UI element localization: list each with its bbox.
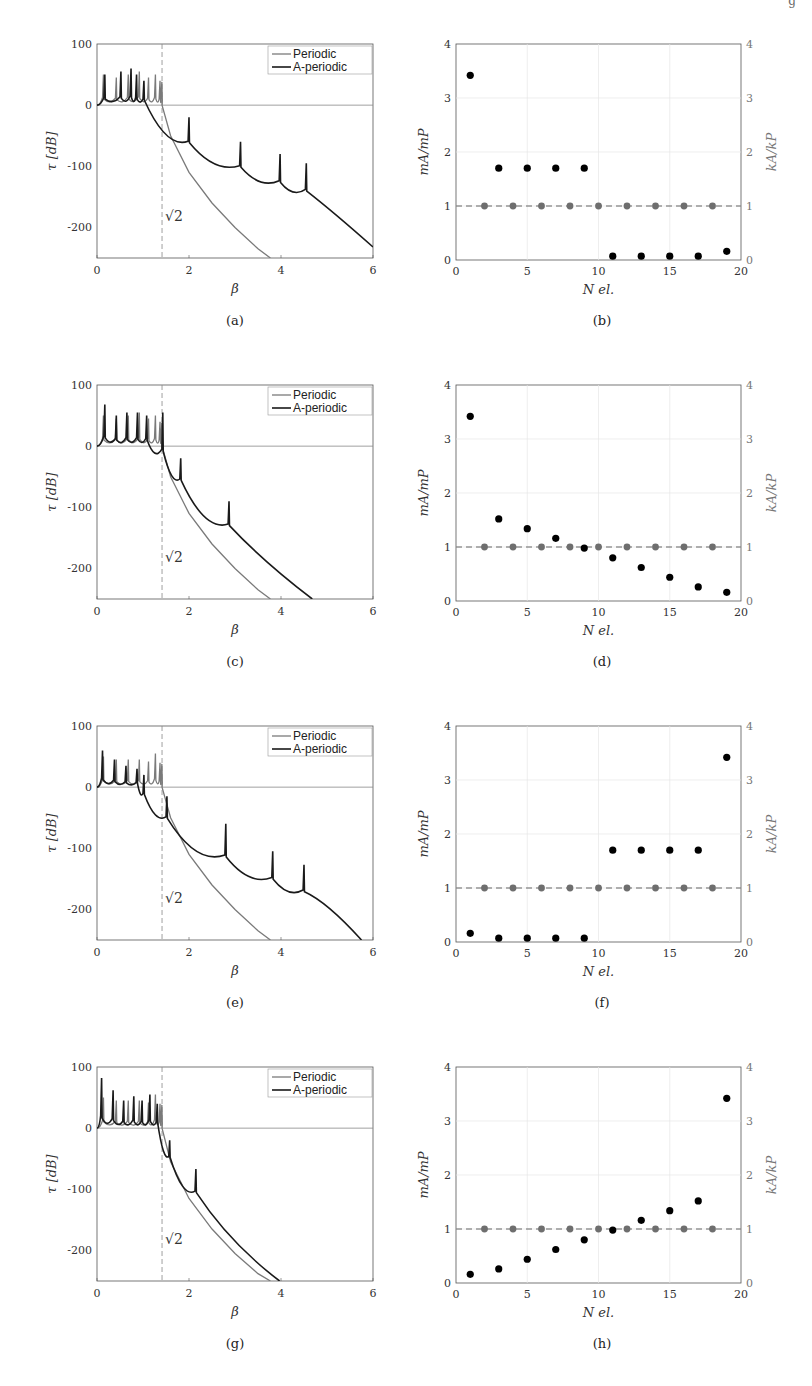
panel-e-transmission-plot: 02461000-100-200√2PeriodicA-periodicβτ [… [0,682,406,1022]
y-tick-label: 1 [444,541,451,554]
x-tick-label: 6 [370,264,377,277]
stiffness-ratio-point [510,1226,517,1233]
x-tick-label: 4 [278,264,285,277]
y-tick-label: 100 [71,38,92,51]
y-tick-label: 3 [444,433,451,446]
y-right-axis-label: kA/kP [764,474,779,513]
legend-aperiodic: A-periodic [293,742,347,756]
y-right-tick-label: 0 [746,595,753,608]
stiffness-ratio-point [709,203,716,210]
stiffness-ratio-point [624,1226,631,1233]
y-tick-label: 0 [85,1122,92,1135]
x-tick-label: 0 [94,264,101,277]
x-tick-label: 4 [278,1287,285,1300]
legend-periodic: Periodic [293,729,336,743]
panel-c-transmission-plot: 02461000-100-200√2PeriodicA-periodicβτ [… [0,341,406,681]
mass-ratio-point [666,253,673,260]
mass-ratio-point [638,564,645,571]
x-tick-label: 0 [94,1287,101,1300]
legend-aperiodic: A-periodic [293,60,347,74]
y-tick-label: 2 [444,1169,451,1182]
y-tick-label: 2 [444,487,451,500]
mass-ratio-point [467,72,474,79]
x-axis-label: β [230,1304,239,1319]
stiffness-ratio-point [709,544,716,551]
x-tick-label: 15 [663,265,677,278]
mass-ratio-point [695,253,702,260]
sqrt2-annotation: √2 [165,549,183,565]
x-tick-label: 10 [592,606,606,619]
x-tick-label: 15 [663,1288,677,1301]
stiffness-ratio-point [595,885,602,892]
x-tick-label: 5 [524,947,531,960]
figure: g 02461000-100-200√2PeriodicA-periodicβτ… [0,0,812,1386]
mass-ratio-point [723,1095,730,1102]
mass-ratio-point [695,1197,702,1204]
mass-ratio-point [695,847,702,854]
stiffness-ratio-point [681,203,688,210]
mass-ratio-point [467,930,474,937]
sqrt2-annotation: √2 [165,208,183,224]
y-tick-label: -200 [67,903,92,916]
y-tick-label: 100 [71,720,92,733]
stiffness-ratio-point [538,1226,545,1233]
mass-ratio-point [467,413,474,420]
stiffness-ratio-point [510,203,517,210]
mass-ratio-point [524,1256,531,1263]
y-axis-label: mA/mP [416,1151,431,1198]
stiffness-ratio-point [709,885,716,892]
x-tick-label: 2 [186,605,193,618]
mass-ratio-point [524,525,531,532]
panel-a-transmission-plot: 02461000-100-200√2PeriodicA-periodicβτ [… [0,0,406,340]
mass-ratio-point [495,515,502,522]
x-tick-label: 6 [370,605,377,618]
y-tick-label: 3 [444,774,451,787]
stiffness-ratio-point [652,885,659,892]
mass-ratio-point [495,935,502,942]
x-axis-label: N el. [582,623,615,638]
mass-ratio-point [552,1246,559,1253]
mass-ratio-point [638,253,645,260]
y-axis-label: τ [dB] [44,812,59,852]
x-tick-label: 10 [592,265,606,278]
mass-ratio-point [552,935,559,942]
y-tick-label: 3 [444,1115,451,1128]
y-tick-label: 0 [85,440,92,453]
y-right-axis-label: kA/kP [764,815,779,854]
y-axis-label: mA/mP [416,810,431,857]
legend-periodic: Periodic [293,388,336,402]
y-tick-label: 0 [444,936,451,949]
y-tick-label: 100 [71,379,92,392]
y-tick-label: -100 [67,160,92,173]
x-tick-label: 5 [524,265,531,278]
stiffness-ratio-point [481,1226,488,1233]
caption-b: (b) [582,313,622,328]
legend: PeriodicA-periodic [268,387,372,415]
y-tick-label: 0 [444,1277,451,1290]
y-right-tick-label: 1 [746,541,753,554]
x-tick-label: 4 [278,946,285,959]
y-right-tick-label: 2 [746,146,753,159]
y-right-tick-label: 3 [746,1115,753,1128]
sqrt2-annotation: √2 [165,1231,183,1247]
stiffness-ratio-point [595,1226,602,1233]
mass-ratio-point [638,847,645,854]
x-tick-label: 5 [524,606,531,619]
y-right-tick-label: 0 [746,254,753,267]
x-tick-label: 0 [94,605,101,618]
y-tick-label: 1 [444,1223,451,1236]
stiffness-ratio-point [510,885,517,892]
x-tick-label: 0 [94,946,101,959]
y-tick-label: -100 [67,842,92,855]
stiffness-ratio-point [567,885,574,892]
y-tick-label: 4 [444,1061,451,1074]
y-tick-label: 0 [85,781,92,794]
caption-h: (h) [582,1336,622,1351]
mass-ratio-point [609,847,616,854]
y-tick-label: 3 [444,92,451,105]
x-tick-label: 15 [663,606,677,619]
plot-area: 051015200011223344N el.mA/mPkA/kP [416,38,779,297]
legend: PeriodicA-periodic [268,728,372,756]
panel-b-ratio-scatter: 051015200011223344N el.mA/mPkA/kP [406,0,812,340]
x-tick-label: 4 [278,605,285,618]
